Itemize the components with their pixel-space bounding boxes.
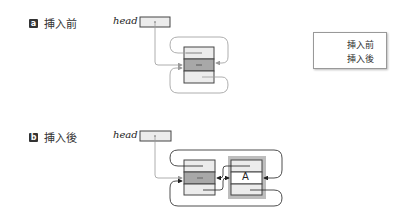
- legend: 挿入前 挿入後: [313, 32, 387, 69]
- panel-b-diagram: [140, 131, 282, 206]
- legend-item-before: 挿入前: [347, 38, 374, 51]
- node-a-label: A: [242, 171, 249, 182]
- panel-a-diagram: [140, 17, 228, 93]
- legend-item-after: 挿入後: [347, 52, 374, 65]
- legend-before-label: 挿入前: [347, 38, 374, 51]
- legend-after-label: 挿入後: [347, 52, 374, 65]
